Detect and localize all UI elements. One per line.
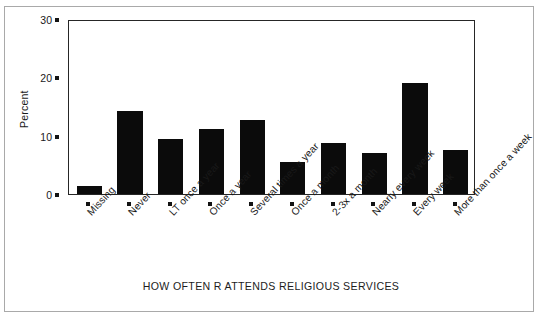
y-axis-title: Percent (18, 90, 30, 128)
bar (158, 139, 183, 194)
y-tick-mark (55, 193, 59, 197)
y-tick-label: 30 (40, 15, 52, 25)
x-axis-title: HOW OFTEN R ATTENDS RELIGIOUS SERVICES (0, 280, 542, 292)
y-tick-label: 10 (40, 132, 52, 142)
y-tick-mark (55, 76, 59, 80)
y-tick-label: 20 (40, 73, 52, 83)
bar-chart-figure: 0102030 Percent HOW OFTEN R ATTENDS RELI… (0, 0, 542, 320)
y-axis: 0102030 (0, 0, 68, 215)
y-tick-label: 0 (46, 190, 52, 200)
bar (117, 111, 142, 194)
bar (77, 186, 102, 194)
y-tick-mark (55, 18, 59, 22)
y-tick-mark (55, 135, 59, 139)
